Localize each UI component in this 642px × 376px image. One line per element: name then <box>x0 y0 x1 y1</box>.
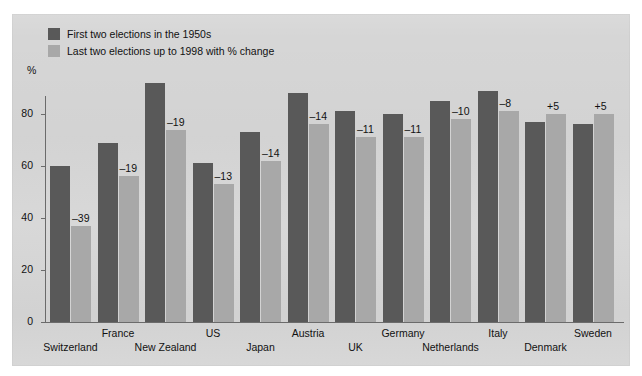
bar-last-elections <box>309 124 329 322</box>
bar-first-elections <box>430 101 450 322</box>
legend-item-last: Last two elections up to 1998 with % cha… <box>48 43 274 58</box>
delta-label: –11 <box>405 124 422 134</box>
bar-last-elections <box>356 137 376 322</box>
delta-label: –14 <box>262 148 280 158</box>
category-label: Switzerland <box>26 341 116 353</box>
delta-label: –10 <box>452 106 470 116</box>
y-tick-label: 80 <box>21 107 33 119</box>
y-axis-unit-label: % <box>27 64 36 76</box>
bar-first-elections <box>335 111 355 322</box>
bar-last-elections <box>261 161 281 322</box>
bar-first-elections <box>478 91 498 322</box>
y-tick-mark <box>41 218 46 219</box>
y-tick-label: 40 <box>21 211 33 223</box>
delta-label: –19 <box>120 163 138 173</box>
x-axis-line <box>45 322 624 323</box>
bar-last-elections <box>499 111 519 322</box>
category-label: New Zealand <box>121 341 211 353</box>
bar-first-elections <box>288 93 308 322</box>
y-tick-mark <box>41 270 46 271</box>
category-label: France <box>73 327 163 339</box>
delta-label: –11 <box>357 124 374 134</box>
legend-item-first: First two elections in the 1950s <box>48 26 274 41</box>
delta-label: –39 <box>72 213 90 223</box>
bar-first-elections <box>573 124 593 322</box>
y-tick-mark <box>41 114 46 115</box>
light-swatch-icon <box>48 45 60 57</box>
category-label: Netherlands <box>406 341 496 353</box>
bar-first-elections <box>383 114 403 322</box>
legend-label-last: Last two elections up to 1998 with % cha… <box>67 45 274 57</box>
delta-label: +5 <box>547 101 559 111</box>
delta-label: –13 <box>215 171 233 181</box>
bar-last-elections <box>594 114 614 322</box>
bar-last-elections <box>166 130 186 322</box>
delta-label: +5 <box>595 101 607 111</box>
bar-last-elections <box>546 114 566 322</box>
y-axis-line <box>45 96 46 323</box>
category-label: Denmark <box>501 341 591 353</box>
bar-last-elections <box>71 226 91 322</box>
bar-first-elections <box>50 166 70 322</box>
category-label: UK <box>311 341 401 353</box>
bar-last-elections <box>451 119 471 322</box>
bar-first-elections <box>145 83 165 322</box>
bar-last-elections <box>404 137 424 322</box>
category-label: US <box>168 327 258 339</box>
y-tick-label: 60 <box>21 159 33 171</box>
category-label: Japan <box>216 341 306 353</box>
dark-swatch-icon <box>48 28 60 40</box>
bar-last-elections <box>214 184 234 322</box>
category-label: Sweden <box>548 327 638 339</box>
delta-label: –14 <box>310 111 328 121</box>
bar-last-elections <box>119 176 139 322</box>
legend-label-first: First two elections in the 1950s <box>67 28 211 40</box>
chart-figure: First two elections in the 1950s Last tw… <box>0 0 642 376</box>
y-tick-mark <box>41 166 46 167</box>
chart-legend: First two elections in the 1950s Last tw… <box>48 26 274 60</box>
category-label: Germany <box>358 327 448 339</box>
y-tick-label: 0 <box>27 315 33 327</box>
delta-label: –8 <box>500 98 512 108</box>
bar-first-elections <box>193 163 213 322</box>
category-label: Italy <box>453 327 543 339</box>
category-label: Austria <box>263 327 353 339</box>
delta-label: –19 <box>167 117 185 127</box>
bar-first-elections <box>240 132 260 322</box>
bar-first-elections <box>98 143 118 322</box>
y-tick-label: 20 <box>21 263 33 275</box>
bar-first-elections <box>525 122 545 322</box>
